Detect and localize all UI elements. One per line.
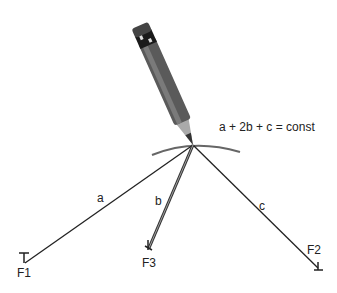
segment-label-a: a <box>97 192 104 204</box>
segment-label-c: c <box>259 200 265 212</box>
equation-label: a + 2b + c = const <box>219 121 315 133</box>
focus-label-f3: F3 <box>142 257 156 269</box>
focus-label-f2: F2 <box>307 244 321 256</box>
focus-label-f1: F1 <box>17 267 31 279</box>
string-c <box>193 145 318 268</box>
string-construction-drawing <box>0 0 337 293</box>
diagram-canvas: a + 2b + c = const a b c F1 F2 F3 <box>0 0 337 293</box>
segment-label-b: b <box>155 195 162 207</box>
pencil-icon <box>131 22 201 149</box>
